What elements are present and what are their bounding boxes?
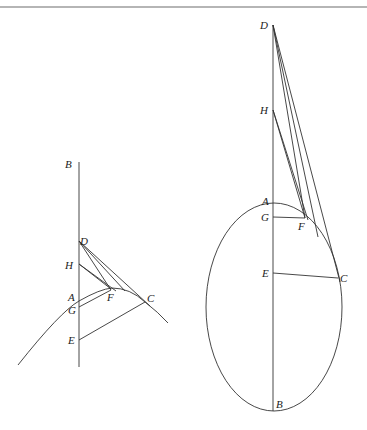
right-label-a: A xyxy=(261,195,269,207)
right-figure: D H A G F E C B xyxy=(206,19,348,411)
right-line-df xyxy=(273,25,305,218)
right-line-gf xyxy=(273,217,305,218)
right-label-g: G xyxy=(261,211,269,223)
left-tangent-dc xyxy=(79,241,150,306)
left-label-e: E xyxy=(67,334,75,346)
diagram-canvas: B D H A G F C E D H A G F E C B xyxy=(0,0,367,430)
left-label-h: H xyxy=(64,259,74,271)
left-line-d-curve xyxy=(79,241,125,291)
left-label-c: C xyxy=(147,292,155,304)
right-label-e: E xyxy=(261,267,269,279)
left-label-d: D xyxy=(79,235,88,247)
left-figure: B D H A G F C E xyxy=(18,158,168,367)
left-label-b: B xyxy=(65,158,72,170)
left-label-g: G xyxy=(68,304,76,316)
left-label-a: A xyxy=(67,291,75,303)
right-ellipse xyxy=(206,203,342,411)
right-label-c: C xyxy=(340,272,348,284)
left-line-ec xyxy=(79,302,145,340)
right-label-f: F xyxy=(297,220,305,232)
right-tangent-dc xyxy=(273,25,340,282)
right-line-ec xyxy=(273,273,338,278)
left-line-h-curve xyxy=(79,264,116,291)
right-label-h: H xyxy=(259,104,269,116)
left-label-f: F xyxy=(106,291,114,303)
right-label-d: D xyxy=(259,19,268,31)
right-label-b: B xyxy=(276,398,283,410)
